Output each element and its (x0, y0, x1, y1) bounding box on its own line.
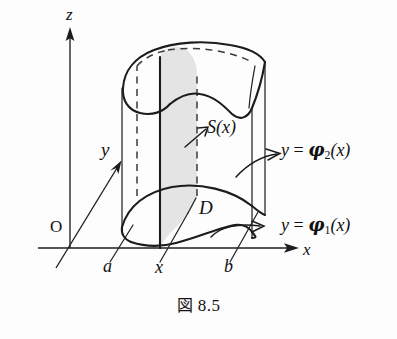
axis-label-z: z (66, 6, 73, 23)
cross-section-label: S(x) (207, 118, 236, 136)
cross-section-slice (160, 47, 197, 248)
tick-label-a: a (103, 257, 112, 275)
leader-line-phi2 (236, 154, 277, 177)
tick-label-x: x (155, 258, 163, 276)
upper-boundary-phi: φ (308, 139, 324, 160)
cross-section-function-name: S (207, 117, 216, 137)
geometry-diagram (0, 0, 397, 339)
axis-label-x: x (303, 241, 311, 258)
figure-container: z y O x a x b S(x) D y = φ2(x) y = φ1(x)… (0, 0, 397, 339)
base-front-boundary-phi1 (131, 225, 252, 246)
upper-boundary-argument: (x) (330, 140, 350, 160)
upper-boundary-equals: = (294, 140, 304, 160)
leader-arrows-group (185, 127, 280, 237)
cross-section-argument: (x) (216, 117, 236, 137)
upper-boundary-lhs: y (281, 140, 289, 160)
leader-arrowhead-phi1 (252, 221, 264, 232)
lower-boundary-label: y = φ1(x) (281, 216, 350, 237)
y-axis-line (56, 168, 117, 268)
figure-caption-number: 8.5 (198, 296, 221, 315)
axis-label-y: y (101, 140, 109, 159)
figure-caption-word: 図 (177, 296, 194, 315)
origin-label: O (50, 218, 62, 235)
lower-boundary-equals: = (294, 215, 304, 235)
figure-caption: 図 8.5 (0, 297, 397, 314)
lower-boundary-phi: φ (308, 214, 324, 235)
region-label-D: D (199, 198, 213, 217)
lower-boundary-argument: (x) (330, 215, 350, 235)
tick-label-b: b (224, 257, 233, 275)
lower-boundary-lhs: y (281, 215, 289, 235)
base-rear-boundary-tail (252, 206, 265, 215)
y-axis-arrowhead (110, 161, 121, 174)
upper-boundary-label: y = φ2(x) (281, 141, 350, 162)
